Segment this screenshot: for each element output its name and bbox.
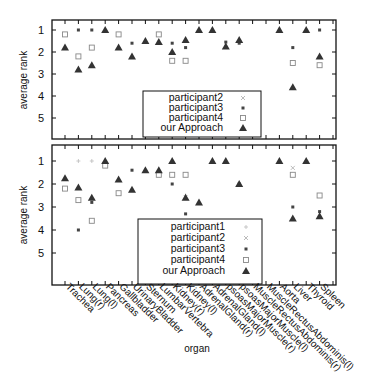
- participant3-marker: [184, 46, 187, 49]
- participant4-marker: [116, 191, 121, 196]
- bottom-legend: participant1 participant2 participant3 p…: [138, 219, 262, 284]
- approach-marker: [302, 157, 310, 164]
- participant4-marker: [317, 63, 322, 68]
- y-tick-label: 3: [38, 68, 44, 80]
- participant4-marker: [116, 32, 121, 37]
- approach-marker: [275, 157, 283, 164]
- approach-marker: [195, 198, 203, 205]
- participant4-marker: [89, 218, 94, 223]
- y-tick-label: 5: [38, 112, 44, 124]
- approach-marker: [101, 157, 109, 164]
- participant3-marker: [131, 42, 134, 45]
- participant4-marker: [156, 32, 161, 37]
- approach-marker: [61, 44, 69, 51]
- approach-marker: [88, 194, 96, 201]
- approach-marker: [155, 166, 163, 173]
- approach-marker: [168, 48, 176, 55]
- participant4-marker: [183, 172, 188, 177]
- participant4-marker: [76, 198, 81, 203]
- approach-marker: [74, 183, 82, 190]
- participant1-marker: [76, 159, 80, 163]
- approach-marker: [101, 26, 109, 33]
- approach-marker: [316, 52, 324, 59]
- participant3-marker: [90, 201, 93, 204]
- approach-marker: [74, 66, 82, 73]
- approach-marker: [235, 36, 243, 43]
- y-tick-label: 1: [38, 155, 44, 167]
- participant4-marker: [290, 172, 295, 177]
- bottom-legend-our-approach: our Approach: [163, 264, 226, 276]
- participant4-marker: [170, 172, 175, 177]
- bottom-y-axis-label: average rank: [18, 185, 29, 244]
- approach-marker: [182, 194, 190, 201]
- participant3-marker: [318, 29, 321, 32]
- participant4-marker: [170, 58, 175, 63]
- y-tick-label: 3: [38, 201, 44, 213]
- participant4-marker: [290, 61, 295, 66]
- y-tick-label: 4: [38, 224, 44, 236]
- y-tick-label: 2: [38, 178, 44, 190]
- participant4-marker: [76, 54, 81, 59]
- participant3-marker: [131, 169, 134, 172]
- participant4-marker: [63, 186, 68, 191]
- approach-marker: [128, 186, 136, 193]
- y-tick-label: 4: [38, 90, 44, 102]
- rank-chart: average rank 12345 participant2 particip…: [0, 0, 369, 382]
- approach-marker: [155, 38, 163, 45]
- approach-marker: [168, 157, 176, 164]
- y-tick-label: 5: [38, 247, 44, 259]
- approach-marker: [115, 44, 123, 51]
- approach-marker: [208, 157, 216, 164]
- top-legend: participant2 participant3 participant4 o…: [143, 91, 261, 137]
- participant3-marker: [171, 42, 174, 45]
- y-tick-label: 2: [38, 46, 44, 58]
- approach-marker: [88, 61, 96, 68]
- approach-marker: [141, 166, 149, 173]
- participant3-marker: [245, 248, 248, 251]
- approach-marker: [208, 26, 216, 33]
- participant4-marker: [89, 45, 94, 50]
- approach-marker: [222, 157, 230, 164]
- approach-marker: [316, 212, 324, 219]
- approach-marker: [235, 180, 243, 187]
- x-axis-organ-labels: TracheaLung(r)Lung(l)PancreasGallbladder…: [64, 281, 356, 373]
- participant3-marker: [171, 183, 174, 186]
- top-data-points: [61, 26, 324, 90]
- participant1-marker: [90, 159, 94, 163]
- participant3-marker: [291, 206, 294, 209]
- top-panel: average rank 12345 participant2 particip…: [18, 20, 336, 139]
- bottom-panel: average rank 12345 participant1 particip…: [18, 145, 336, 285]
- participant3-marker: [291, 46, 294, 49]
- approach-marker: [61, 174, 69, 181]
- approach-marker: [141, 37, 149, 44]
- participant4-marker: [317, 193, 322, 198]
- participant3-marker: [77, 29, 80, 32]
- participant3-marker: [77, 229, 80, 232]
- approach-marker: [128, 52, 136, 59]
- participant4-marker: [183, 58, 188, 63]
- approach-marker: [289, 215, 297, 222]
- participant3-marker: [242, 107, 245, 110]
- top-y-axis-label: average rank: [18, 50, 29, 109]
- top-legend-our-approach: our Approach: [161, 121, 224, 133]
- approach-marker: [182, 36, 190, 43]
- x-axis-label: organ: [184, 343, 210, 354]
- approach-marker: [115, 175, 123, 182]
- participant2-marker: [291, 166, 295, 170]
- approach-marker: [222, 43, 230, 50]
- approach-marker: [289, 83, 297, 90]
- participant3-marker: [184, 212, 187, 215]
- approach-marker: [275, 26, 283, 33]
- approach-marker: [302, 26, 310, 33]
- approach-marker: [195, 26, 203, 33]
- participant3-marker: [90, 29, 93, 32]
- y-tick-label: 1: [38, 24, 44, 36]
- participant4-marker: [63, 32, 68, 37]
